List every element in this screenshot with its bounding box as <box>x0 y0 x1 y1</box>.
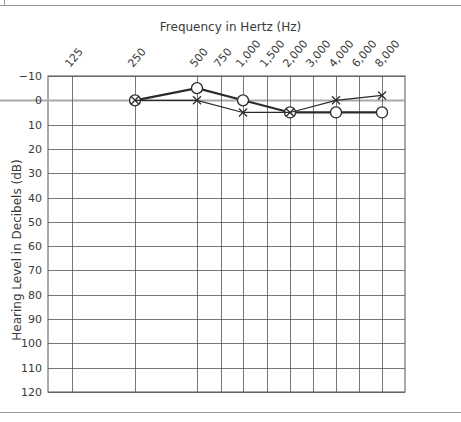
y-tick-label: 50 <box>28 216 42 229</box>
x-tick-label: 125 <box>62 45 85 69</box>
y-tick-label: 40 <box>28 192 42 205</box>
y-tick-label: −10 <box>19 70 42 83</box>
x-tick-label: 500 <box>187 45 210 69</box>
circle-marker-icon <box>192 83 203 94</box>
y-tick-label: 100 <box>21 337 42 350</box>
y-tick-label: 0 <box>35 94 42 107</box>
bottom-divider <box>0 412 461 413</box>
x-tick-labels: 1252505007501,0001,5002,0003,0004,0006,0… <box>62 37 402 69</box>
y-tick-label: 110 <box>21 362 42 375</box>
x-tick-label: 750 <box>211 45 234 69</box>
y-tick-label: 90 <box>28 313 42 326</box>
plot-frame <box>48 76 405 392</box>
y-tick-label: 120 <box>21 386 42 399</box>
x-tick-label: 1,000 <box>233 37 263 69</box>
circle-marker-icon <box>238 95 249 106</box>
circle-marker-icon <box>331 107 342 118</box>
y-tick-label: 10 <box>28 119 42 132</box>
audiogram-chart: 1252505007501,0001,5002,0003,0004,0006,0… <box>0 0 461 422</box>
grid <box>0 76 405 393</box>
y-tick-label: 70 <box>28 264 42 277</box>
x-tick-label: 8,000 <box>372 37 402 69</box>
y-tick-label: 20 <box>28 143 42 156</box>
y-tick-labels: −100102030405060708090100110120 <box>19 70 42 399</box>
circle-marker-icon <box>377 107 388 118</box>
y-tick-label: 80 <box>28 289 42 302</box>
y-tick-label: 30 <box>28 167 42 180</box>
x-tick-label: 250 <box>125 45 148 69</box>
y-tick-label: 60 <box>28 240 42 253</box>
